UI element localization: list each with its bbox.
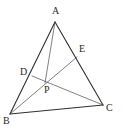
point-label-D: D xyxy=(20,67,27,77)
figure-canvas xyxy=(0,0,123,129)
point-label-C: C xyxy=(106,103,113,113)
cevian-DC xyxy=(32,76,103,105)
side-AB xyxy=(10,22,55,114)
point-label-A: A xyxy=(52,6,59,16)
point-label-P: P xyxy=(44,85,50,95)
geometry-figure: A B C D E P xyxy=(0,0,123,129)
side-BC xyxy=(10,105,103,114)
point-label-E: E xyxy=(79,44,85,54)
side-AC xyxy=(55,22,103,105)
point-label-B: B xyxy=(3,116,10,126)
